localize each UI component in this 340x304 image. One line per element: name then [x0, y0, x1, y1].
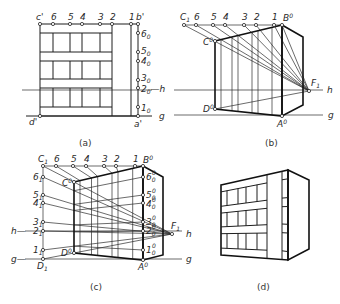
- label-c-2: 2: [114, 154, 120, 164]
- label-b-3: 3: [242, 12, 248, 22]
- label-horizon-b: h: [327, 85, 333, 95]
- label-horizon-right-c: h: [186, 229, 192, 239]
- label-ground-a: g: [159, 111, 165, 121]
- label-d1-c: D1: [37, 261, 48, 272]
- panel-b-construction: C1 6 5 4 3 2 1 B0 C0 D0 A0 F1 h g (b): [174, 12, 334, 148]
- label-a-6: 6: [51, 12, 57, 22]
- caption-c: (c): [90, 282, 102, 292]
- label-a-4: 4: [80, 12, 86, 22]
- caption-d: (d): [257, 282, 270, 292]
- label-a-prime: a': [134, 119, 142, 129]
- label-2-0-0: 200: [146, 223, 156, 237]
- label-b-2: 2: [254, 12, 260, 22]
- label-c-4: 4: [84, 154, 90, 164]
- label-1-0: 10: [141, 103, 151, 114]
- measure-points-b: [182, 23, 310, 117]
- label-horizon-left-c: h—: [11, 226, 26, 236]
- label-ground-b: g: [328, 110, 334, 120]
- label-c-3: 3: [102, 154, 108, 164]
- label-d-prime: d': [29, 117, 37, 127]
- building-front-d: [221, 170, 288, 260]
- floor-bands-a: [40, 33, 112, 107]
- facade-outline-a: [40, 24, 138, 116]
- label-a0-c: A0: [137, 261, 148, 272]
- panel-c-construction: C1 6 5 4 3 2 1 B0 61 51 41 31 21 11 600 …: [11, 154, 192, 292]
- perspective-construction-figure: c' 6 5 4 3 2 1 b' 60 50 40 30 20—h 10 g …: [0, 0, 340, 304]
- top-rays-c: [43, 166, 135, 259]
- label-d0-c: D0: [61, 247, 72, 258]
- label-a-1: 1: [129, 12, 135, 22]
- label-f1-c: F1: [171, 221, 180, 232]
- label-a0-b: A0: [276, 118, 287, 129]
- measure-points-a: [38, 22, 139, 117]
- label-c-5: 5: [71, 154, 77, 164]
- label-ground-right-c: g: [186, 254, 192, 264]
- label-c1-c: C1: [38, 154, 48, 165]
- label-a-3: 3: [98, 12, 104, 22]
- label-c-prime: c': [36, 12, 43, 22]
- label-b-prime: b': [136, 12, 144, 22]
- building-side-d: [288, 170, 309, 260]
- stair-strip-ticks-d: [282, 179, 288, 252]
- label-b0-b: B0: [283, 12, 293, 23]
- label-f1-b: F1: [311, 78, 320, 89]
- window-mullions-d: [227, 185, 257, 250]
- label-d0-b: D0: [203, 103, 214, 114]
- caption-b: (b): [265, 138, 278, 148]
- label-6-0-0: 600: [146, 169, 156, 183]
- label-4-0-0: 400: [146, 196, 156, 210]
- label-2-0-h: 20—h: [141, 84, 166, 95]
- panel-d-final-perspective: (d): [221, 170, 309, 292]
- label-b-4: 4: [223, 12, 229, 22]
- label-a-5: 5: [68, 12, 74, 22]
- label-b0-c: B0: [143, 154, 153, 165]
- label-b-6: 6: [194, 12, 200, 22]
- labels-a: c' 6 5 4 3 2 1 b' 60 50 40 30 20—h 10 g …: [29, 12, 166, 129]
- label-1-0-0: 100: [146, 242, 156, 256]
- label-c-1: 1: [133, 154, 139, 164]
- caption-a: (a): [79, 138, 92, 148]
- label-c0-b: C0: [203, 36, 213, 47]
- label-b-1: 1: [272, 12, 278, 22]
- window-mullions-a: [53, 33, 100, 107]
- label-c1-b: C1: [180, 12, 190, 23]
- label-c0-c: C0: [62, 177, 72, 188]
- label-c-6: 6: [54, 154, 60, 164]
- label-6-0: 60: [141, 29, 151, 40]
- division-verticals-b: [221, 27, 272, 115]
- label-b-5: 5: [211, 12, 217, 22]
- label-6-1: 61: [33, 172, 43, 183]
- label-a-2: 2: [110, 12, 116, 22]
- panel-a-elevation: c' 6 5 4 3 2 1 b' 60 50 40 30 20—h 10 g …: [22, 12, 166, 148]
- label-1-1: 11: [33, 245, 43, 256]
- floor-bands-d: [221, 183, 267, 250]
- label-3-0: 30: [141, 73, 151, 84]
- label-4-0: 40: [141, 56, 151, 67]
- label-ground-left-c: g—: [11, 254, 26, 264]
